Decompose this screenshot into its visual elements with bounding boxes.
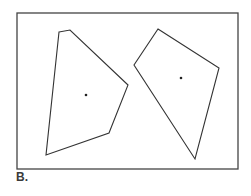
figure-frame <box>17 13 238 169</box>
left-polygon-centroid <box>85 94 88 97</box>
diagram-canvas <box>0 0 251 196</box>
right-polygon-centroid <box>180 77 183 80</box>
figure-label: B. <box>16 170 28 184</box>
left-polygon <box>46 30 128 155</box>
right-polygon <box>134 29 219 159</box>
